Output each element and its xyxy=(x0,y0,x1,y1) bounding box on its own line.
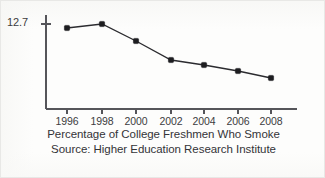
chart-axes xyxy=(41,15,297,114)
data-point-2000 xyxy=(133,38,138,43)
caption-source: Source: Higher Education Research Instit… xyxy=(1,142,325,157)
x-tick-label-1996: 1996 xyxy=(47,115,87,127)
chart-figure: 12.7 1996199820002002200420062008 Percen… xyxy=(0,0,325,178)
x-tick-label-2008: 2008 xyxy=(251,115,291,127)
data-point-2004 xyxy=(201,62,206,67)
data-series-group xyxy=(64,21,273,80)
data-point-2008 xyxy=(268,75,273,80)
y-axis-label-12-7: 12.7 xyxy=(7,16,28,28)
data-point-2006 xyxy=(235,68,240,73)
data-point-2002 xyxy=(168,57,173,62)
data-point-1998 xyxy=(99,21,104,26)
chart-caption-block: Percentage of College Freshmen Who Smoke… xyxy=(1,127,325,157)
data-point-1996 xyxy=(64,25,69,30)
x-tick-label-2000: 2000 xyxy=(116,115,156,127)
caption-title: Percentage of College Freshmen Who Smoke xyxy=(1,127,325,142)
x-axis-ticks xyxy=(67,109,271,114)
